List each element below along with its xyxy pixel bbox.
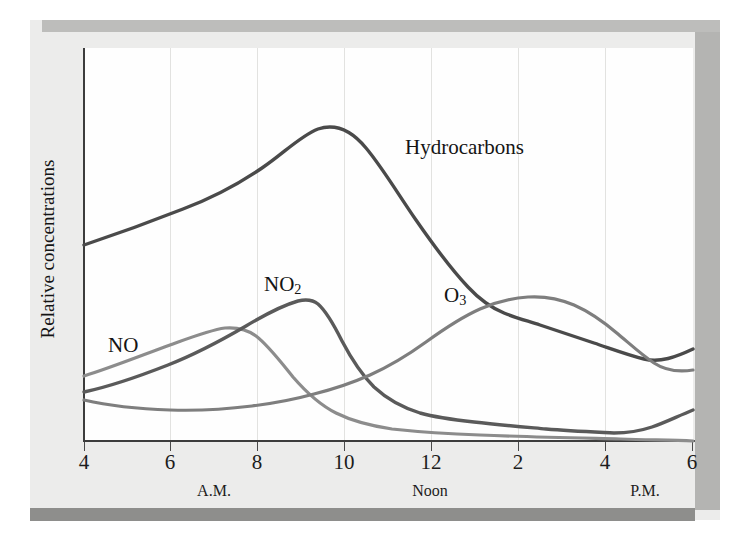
plot-canvas (83, 48, 693, 440)
series-label-no: NO (108, 333, 138, 358)
gridline-4pm (605, 48, 606, 440)
period-label-noon: Noon (370, 482, 490, 500)
series-label-o3-sub: 3 (459, 292, 466, 308)
series-label-no2-main: NO (264, 272, 294, 296)
x-tick-label-4: 12 (401, 450, 461, 475)
x-tick-label-1: 6 (140, 450, 200, 475)
period-label-pm: P.M. (585, 482, 705, 500)
series-label-o3-main: O (444, 283, 459, 307)
period-label-am: A.M. (154, 482, 274, 500)
y-axis-line (83, 48, 85, 442)
x-axis-line (83, 440, 695, 442)
x-tick-label-0: 4 (54, 450, 114, 475)
x-tick-label-6: 4 (575, 450, 635, 475)
figure-bottom-rule (30, 508, 695, 521)
series-label-no2: NO2 (264, 272, 301, 298)
paper-shadow-right (695, 32, 720, 510)
series-label-no2-sub: 2 (294, 281, 301, 297)
gridline-6am (170, 48, 171, 440)
y-axis-title: Relative concentrations (37, 109, 59, 389)
series-label-hydrocarbons: Hydrocarbons (405, 135, 524, 160)
series-label-o3: O3 (444, 283, 466, 309)
x-tick-label-7: 6 (662, 450, 722, 475)
gridline-8am (257, 48, 258, 440)
figure-container: 4 6 8 10 12 2 4 6 A.M. Noon P.M. Relativ… (0, 0, 756, 549)
x-tick-label-2: 8 (227, 450, 287, 475)
x-tick-label-5: 2 (488, 450, 548, 475)
gridline-2pm (518, 48, 519, 440)
paper-shadow-top (42, 20, 720, 32)
x-tick-label-3: 10 (314, 450, 374, 475)
gridline-12noon (431, 48, 432, 440)
gridline-10am (344, 48, 345, 440)
